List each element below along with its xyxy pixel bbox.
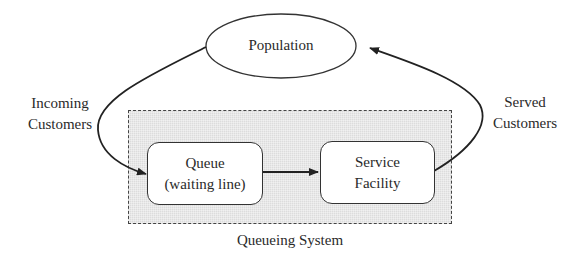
queue-label-line1: Queue <box>185 153 224 174</box>
served-customers-label: Served Customers <box>470 92 575 134</box>
queueing-system-label: Queueing System <box>200 230 380 251</box>
queue-label-line2: (waiting line) <box>164 174 245 195</box>
incoming-customers-label: Incoming Customers <box>0 93 120 135</box>
served-line1: Served <box>470 92 575 113</box>
service-label-line2: Facility <box>355 173 401 194</box>
population-text: Population <box>248 37 313 53</box>
service-facility-node: Service Facility <box>320 141 435 204</box>
queue-node: Queue (waiting line) <box>147 142 263 205</box>
population-label: Population <box>206 35 356 56</box>
service-label-line1: Service <box>355 152 400 173</box>
incoming-line1: Incoming <box>0 93 120 114</box>
served-line2: Customers <box>470 113 575 134</box>
queueing-system-text: Queueing System <box>237 232 343 248</box>
incoming-line2: Customers <box>0 114 120 135</box>
